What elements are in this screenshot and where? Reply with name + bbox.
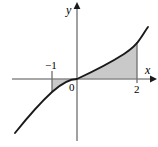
- x-axis-arrow-icon: [150, 76, 157, 83]
- y-axis-arrow-icon: [74, 2, 81, 9]
- tick-label-minus-1: −1: [45, 60, 57, 71]
- function-curve: [15, 27, 148, 133]
- shaded-region-right: [77, 42, 137, 79]
- plot-canvas: [0, 0, 158, 147]
- origin-label: 0: [69, 82, 75, 93]
- x-axis-label: x: [145, 64, 150, 76]
- math-figure: y x −1 0 2: [0, 0, 158, 147]
- y-axis-label: y: [66, 4, 71, 16]
- tick-label-2: 2: [134, 84, 140, 95]
